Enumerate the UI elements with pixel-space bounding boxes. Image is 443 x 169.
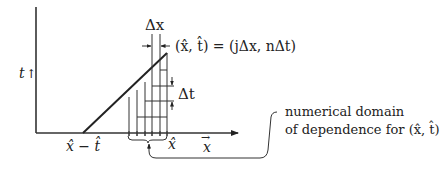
domain-brace (128, 136, 167, 143)
point-definition-label: (x̂, t̂) = (jΔx, nΔt) (175, 36, 296, 54)
annotation-line-2: of dependence for (x̂, t̂) (285, 120, 440, 137)
x-vector-arrow-icon: → (201, 131, 210, 144)
t-axis-label: t (19, 65, 25, 81)
delta-x-label: Δx (145, 16, 165, 34)
delta-t-label: Δt (178, 85, 195, 103)
domain-of-dependence-diagram: t ↑ Δx (x̂, t̂) = (jΔx, nΔt) Δt x̂ − t̂ … (0, 0, 443, 169)
characteristic-line (83, 53, 167, 133)
t-axis-arrow-icon: ↑ (26, 67, 36, 81)
foot-label: x̂ − t̂ (66, 136, 101, 154)
annotation-line-1: numerical domain (285, 104, 405, 119)
xhat-label: x̂ (168, 136, 176, 152)
